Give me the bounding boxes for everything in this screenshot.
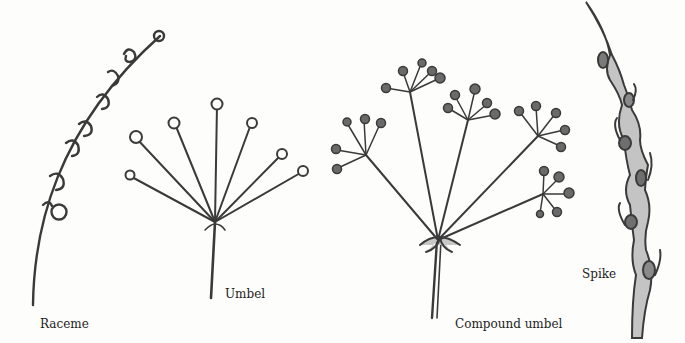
label-spike: Spike: [582, 267, 616, 281]
label-raceme: Raceme: [40, 317, 89, 331]
inflorescence-illustration: [0, 0, 685, 343]
raceme-drawing: [33, 31, 164, 305]
compound-umbel-drawing: [332, 59, 575, 318]
spike-drawing: [586, 2, 660, 338]
label-compound-umbel: Compound umbel: [455, 317, 562, 331]
label-umbel: Umbel: [225, 287, 265, 301]
umbel-drawing: [126, 99, 309, 299]
